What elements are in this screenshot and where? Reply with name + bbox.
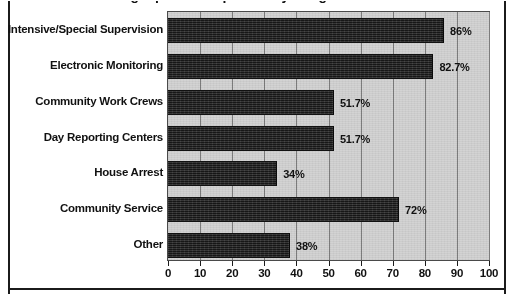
bar-value-label: 38% xyxy=(296,240,317,252)
gridline xyxy=(489,12,490,260)
bar-chart-figure: Sentencing Options Reported by Programs … xyxy=(0,0,518,294)
x-tick-label: 60 xyxy=(354,267,366,279)
x-tick-label: 10 xyxy=(194,267,206,279)
x-tick-mark xyxy=(264,261,265,266)
x-tick-mark xyxy=(489,261,490,266)
x-tick-label: 30 xyxy=(258,267,270,279)
plot-area: 86%82.7%51.7%51.7%34%72%38% xyxy=(167,11,490,261)
bar xyxy=(168,54,433,79)
x-tick-label: 70 xyxy=(387,267,399,279)
top-crop-mask xyxy=(8,0,506,1)
x-tick-mark xyxy=(232,261,233,266)
bar-row: 38% xyxy=(168,233,317,258)
x-tick-mark xyxy=(425,261,426,266)
category-label: House Arrest xyxy=(3,166,163,178)
x-tick-label: 40 xyxy=(290,267,302,279)
bar-value-label: 82.7% xyxy=(439,61,469,73)
bar-row: 51.7% xyxy=(168,126,370,151)
category-label: Community Service xyxy=(3,202,163,214)
category-label: Intensive/Special Supervision xyxy=(3,23,163,35)
x-tick-label: 0 xyxy=(165,267,171,279)
bar xyxy=(168,161,277,186)
x-tick-mark xyxy=(200,261,201,266)
bar-row: 82.7% xyxy=(168,54,470,79)
category-axis: Intensive/Special SupervisionElectronic … xyxy=(0,11,163,261)
x-tick-mark xyxy=(393,261,394,266)
x-tick-mark xyxy=(361,261,362,266)
bar-value-label: 72% xyxy=(405,204,426,216)
x-tick-mark xyxy=(168,261,169,266)
category-label: Community Work Crews xyxy=(3,95,163,107)
gridline xyxy=(457,12,458,260)
x-tick-mark xyxy=(329,261,330,266)
bar-value-label: 86% xyxy=(450,25,471,37)
bar-row: 86% xyxy=(168,18,471,43)
bar xyxy=(168,197,399,222)
category-label: Electronic Monitoring xyxy=(3,59,163,71)
x-tick-mark xyxy=(457,261,458,266)
bar-row: 72% xyxy=(168,197,427,222)
gridline xyxy=(425,12,426,260)
bar xyxy=(168,18,444,43)
bar-value-label: 34% xyxy=(283,168,304,180)
gridline xyxy=(393,12,394,260)
x-axis: 0102030405060708090100 xyxy=(167,261,490,285)
bar xyxy=(168,126,334,151)
category-label: Day Reporting Centers xyxy=(3,131,163,143)
x-tick-label: 20 xyxy=(226,267,238,279)
page-border-right xyxy=(504,0,506,294)
x-tick-mark xyxy=(296,261,297,266)
x-tick-label: 90 xyxy=(451,267,463,279)
category-label: Other xyxy=(3,238,163,250)
x-tick-label: 50 xyxy=(322,267,334,279)
x-tick-label: 80 xyxy=(419,267,431,279)
page-border-bottom xyxy=(8,288,506,290)
bar xyxy=(168,90,334,115)
bar-value-label: 51.7% xyxy=(340,97,370,109)
bar xyxy=(168,233,290,258)
bar-row: 51.7% xyxy=(168,90,370,115)
x-tick-label: 100 xyxy=(480,267,498,279)
bar-row: 34% xyxy=(168,161,305,186)
bar-value-label: 51.7% xyxy=(340,133,370,145)
